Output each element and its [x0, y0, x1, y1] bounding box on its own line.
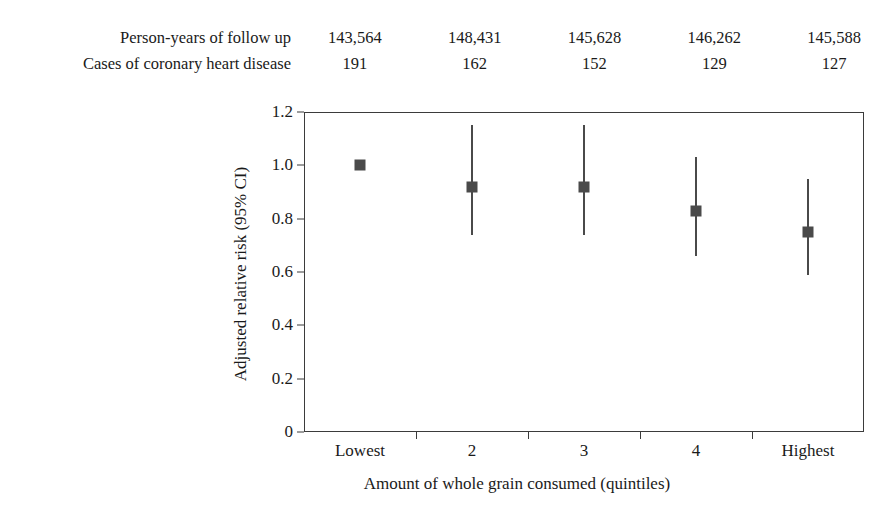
confidence-interval-bar — [471, 125, 473, 234]
row-values-person-years: 143,564 148,431 145,628 146,262 145,588 — [295, 28, 894, 48]
table-cell: 162 — [415, 54, 535, 74]
data-point-marker — [355, 160, 366, 171]
x-tick-label: Highest — [782, 441, 835, 461]
y-tick-mark — [297, 378, 304, 379]
confidence-interval-bar — [583, 125, 585, 234]
x-tick-mark — [528, 432, 529, 439]
y-tick-mark — [297, 325, 304, 326]
data-point-marker — [691, 205, 702, 216]
data-point-marker — [579, 181, 590, 192]
annotation-table: Person-years of follow up 143,564 148,43… — [0, 28, 894, 80]
row-label-cases: Cases of coronary heart disease — [0, 54, 295, 74]
table-cell: 129 — [654, 54, 774, 74]
y-tick-label: 0 — [285, 422, 294, 442]
x-tick-label: Lowest — [335, 441, 385, 461]
x-tick-mark — [416, 432, 417, 439]
y-tick-label: 0.4 — [272, 315, 293, 335]
y-axis-title: Adjusted relative risk (95% CI) — [226, 104, 256, 444]
row-values-cases: 191 162 152 129 127 — [295, 54, 894, 74]
table-cell: 145,628 — [535, 28, 655, 48]
y-tick-label: 1.2 — [272, 102, 293, 122]
x-tick-label: 4 — [692, 441, 701, 461]
y-tick-mark — [297, 165, 304, 166]
table-cell: 145,588 — [774, 28, 894, 48]
x-axis-title: Amount of whole grain consumed (quintile… — [0, 474, 894, 494]
x-tick-label: 3 — [580, 441, 589, 461]
y-tick-mark — [297, 272, 304, 273]
y-tick-mark — [297, 218, 304, 219]
x-tick-mark — [752, 432, 753, 439]
data-point-marker — [467, 181, 478, 192]
table-cell: 146,262 — [654, 28, 774, 48]
y-tick-label: 0.6 — [272, 262, 293, 282]
data-point-marker — [803, 227, 814, 238]
y-axis-title-text: Adjusted relative risk (95% CI) — [231, 167, 251, 381]
row-label-person-years: Person-years of follow up — [0, 28, 295, 48]
table-row: Cases of coronary heart disease 191 162 … — [0, 54, 894, 80]
table-cell: 191 — [295, 54, 415, 74]
y-tick-label: 0.2 — [272, 369, 293, 389]
x-axis-title-text: Amount of whole grain consumed (quintile… — [224, 474, 670, 493]
table-cell: 127 — [774, 54, 894, 74]
plot-area: 00.20.40.60.81.01.2 Lowest234Highest — [304, 112, 864, 432]
x-tick-label: 2 — [468, 441, 477, 461]
figure-chart: Person-years of follow up 143,564 148,43… — [0, 0, 894, 515]
table-cell: 152 — [535, 54, 655, 74]
y-tick-mark — [297, 432, 304, 433]
x-tick-mark — [640, 432, 641, 439]
y-tick-label: 0.8 — [272, 209, 293, 229]
table-cell: 148,431 — [415, 28, 535, 48]
table-row: Person-years of follow up 143,564 148,43… — [0, 28, 894, 54]
y-tick-mark — [297, 112, 304, 113]
table-cell: 143,564 — [295, 28, 415, 48]
y-tick-label: 1.0 — [272, 155, 293, 175]
